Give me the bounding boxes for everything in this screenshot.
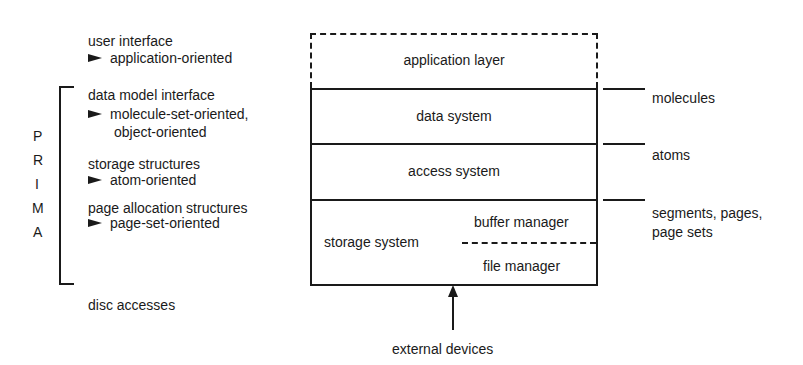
atoms-tick [603, 143, 645, 145]
page-allocation-label: page allocation structures [88, 200, 248, 216]
external-devices-label: external devices [392, 341, 493, 357]
segments-label: segments, pages, [652, 205, 763, 221]
arrow-bullet-icon [88, 176, 102, 184]
buffer-manager-label: buffer manager [474, 214, 569, 230]
storage-system-label: storage system [324, 234, 419, 250]
user-interface-label: user interface [88, 33, 173, 49]
prima-letter-r: R [33, 152, 43, 168]
segments-tick [603, 199, 645, 201]
user-interface-detail: application-oriented [88, 50, 232, 66]
prima-letter-i: I [35, 176, 39, 192]
page-sets-label: page sets [652, 224, 713, 240]
molecules-tick [603, 88, 645, 90]
arrow-bullet-icon [88, 110, 102, 118]
prima-letter-m: M [32, 200, 44, 216]
atoms-label: atoms [652, 147, 690, 163]
file-manager-label: file manager [483, 258, 560, 274]
arrow-bullet-icon [88, 219, 102, 227]
molecules-label: molecules [652, 90, 715, 106]
page-allocation-detail: page-set-oriented [88, 215, 220, 231]
prima-letter-a: A [33, 224, 42, 240]
prima-letter-p: P [33, 128, 42, 144]
storage-structures-label: storage structures [88, 156, 200, 172]
access-system-label: access system [310, 163, 598, 179]
disc-accesses-label: disc accesses [88, 297, 175, 313]
data-system-label: data system [310, 108, 598, 124]
data-model-interface-detail: molecule-set-oriented, [88, 106, 249, 122]
storage-structures-detail: atom-oriented [88, 172, 196, 188]
arrow-bullet-icon [88, 54, 102, 62]
data-model-interface-label: data model interface [88, 87, 215, 103]
application-layer-label: application layer [310, 52, 598, 68]
data-model-interface-detail-2: object-oriented [114, 124, 207, 140]
